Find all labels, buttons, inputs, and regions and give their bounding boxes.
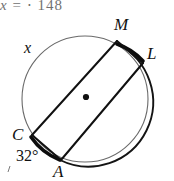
vertex-label-L: L bbox=[147, 45, 156, 62]
vertex-label-M: M bbox=[114, 16, 128, 33]
vertex-label-A: A bbox=[53, 163, 63, 180]
chord-M-L bbox=[117, 41, 143, 63]
vertex-label-C: C bbox=[12, 126, 23, 143]
figure-canvas: x = ⋅ 148 M L A C x 32° bbox=[0, 0, 174, 181]
angle-label-32-degrees: 32° bbox=[16, 148, 38, 164]
center-dot-icon bbox=[83, 94, 89, 100]
chord-C-M bbox=[32, 41, 117, 135]
stray-tick-mark bbox=[8, 166, 10, 172]
arc-label-x: x bbox=[24, 40, 31, 56]
chord-L-A bbox=[61, 63, 143, 160]
